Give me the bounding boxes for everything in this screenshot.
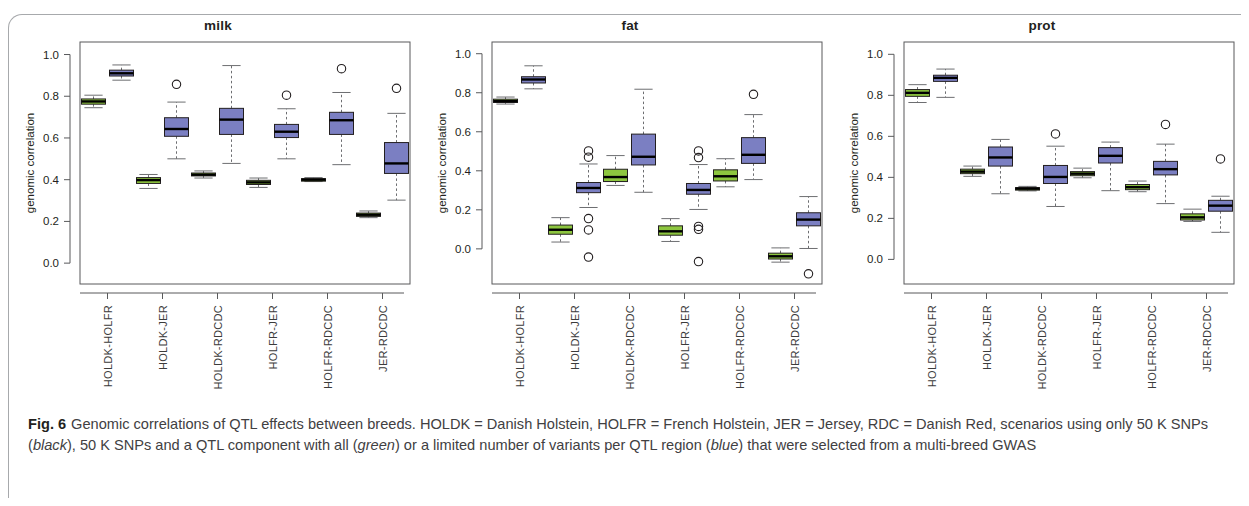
box-iqr: [1044, 165, 1068, 183]
boxplot-box: [165, 80, 189, 159]
boxplot-box: [82, 95, 106, 108]
y-tick-label: 0.8: [867, 89, 883, 101]
panel-milk: milk 0.00.20.40.60.81.0genomic correlati…: [18, 18, 418, 400]
box-iqr: [632, 134, 656, 165]
y-axis: 0.00.20.40.60.81.0: [43, 49, 70, 270]
y-tick-label: 0.0: [43, 257, 59, 269]
y-tick-label: 1.0: [455, 48, 471, 60]
boxplot-box: [247, 178, 271, 187]
box-iqr: [742, 138, 766, 164]
boxplot-box: [1126, 181, 1150, 192]
x-tick-label: HOLFR-RDCDC: [1146, 305, 1158, 389]
boxes-layer: [906, 69, 1233, 232]
boxplot-box: [522, 66, 546, 89]
outlier-point: [584, 253, 592, 261]
boxplot-box: [659, 219, 683, 242]
x-tick-label: HOLFR-JER: [1091, 305, 1103, 369]
y-tick-label: 0.8: [43, 90, 59, 102]
boxplot-box: [604, 156, 628, 186]
boxplot-box: [797, 197, 821, 278]
y-tick-label: 0.0: [867, 253, 883, 265]
x-tick-label: HOLDK-JER: [569, 305, 581, 370]
plot-area: milk 0.00.20.40.60.81.0genomic correlati…: [0, 0, 1249, 400]
panel-title-fat: fat: [430, 18, 830, 33]
box-iqr: [330, 112, 354, 134]
x-tick-label: HOLDK-RDCDC: [1036, 305, 1048, 390]
boxplot-box: [687, 147, 711, 266]
outlier-point: [694, 257, 702, 265]
boxplot-box: [1016, 186, 1040, 191]
x-tick-label: HOLDK-HOLFR: [926, 305, 938, 387]
x-tick-label: HOLDK-RDCDC: [212, 305, 224, 390]
boxplot-box: [769, 248, 793, 262]
box-iqr: [604, 169, 628, 181]
outlier-point: [584, 226, 592, 234]
x-tick-label: HOLFR-RDCDC: [734, 305, 746, 389]
outlier-point: [584, 214, 592, 222]
outlier-point: [392, 84, 400, 92]
outlier-point: [282, 91, 290, 99]
y-tick-label: 0.6: [455, 126, 471, 138]
boxes-layer: [494, 66, 821, 278]
boxplot-box: [494, 97, 518, 104]
y-tick-label: 0.8: [455, 87, 471, 99]
boxplot-svg-fat: 0.00.20.40.60.81.0genomic correlationHOL…: [430, 34, 830, 400]
x-tick-label: HOLDK-JER: [981, 305, 993, 370]
boxplot-box: [989, 139, 1013, 193]
panel-title-milk: milk: [18, 18, 418, 33]
boxplot-box: [577, 147, 601, 262]
y-tick-label: 0.0: [455, 243, 471, 255]
boxplot-box: [220, 66, 244, 164]
box-iqr: [385, 143, 409, 174]
caption-emphasis: green: [358, 437, 395, 453]
y-tick-label: 0.2: [455, 204, 471, 216]
x-tick-label: HOLDK-HOLFR: [102, 305, 114, 387]
y-axis: 0.00.20.40.60.81.0: [455, 48, 482, 255]
y-tick-label: 0.4: [455, 165, 472, 177]
figure-number: Fig. 6: [28, 416, 66, 432]
y-tick-label: 0.2: [867, 212, 883, 224]
boxplot-box: [1181, 209, 1205, 221]
panel-fat: fat 0.00.20.40.60.81.0genomic correlatio…: [430, 18, 830, 400]
boxplot-box: [1154, 120, 1178, 203]
boxplot-box: [357, 211, 381, 218]
boxplot-box: [192, 171, 216, 178]
y-tick-label: 0.4: [43, 174, 60, 186]
boxplot-box: [1071, 168, 1095, 178]
x-axis: HOLDK-HOLFRHOLDK-JERHOLDK-RDCDCHOLFR-JER…: [904, 293, 1228, 390]
y-tick-label: 0.6: [867, 130, 883, 142]
x-tick-label: JER-RDCDC: [789, 305, 801, 372]
boxplot-box: [302, 178, 326, 182]
y-tick-label: 1.0: [867, 48, 883, 60]
boxplot-box: [1044, 130, 1068, 207]
y-tick-label: 0.4: [867, 171, 884, 183]
y-tick-label: 1.0: [43, 49, 59, 61]
outlier-point: [749, 90, 757, 98]
caption-text: ), 50 K SNPs and a QTL component with al…: [67, 437, 358, 453]
boxplot-box: [1099, 142, 1123, 191]
figure-caption: Fig. 6Genomic correlations of QTL effect…: [28, 414, 1226, 455]
boxplot-box: [1209, 155, 1233, 233]
figure-caption-body: Genomic correlations of QTL effects betw…: [28, 416, 1208, 453]
outlier-point: [172, 80, 180, 88]
box-iqr: [165, 118, 189, 137]
boxplot-box: [549, 218, 573, 242]
plot-frame: [80, 42, 410, 284]
boxplot-box: [275, 91, 299, 159]
box-iqr: [220, 108, 244, 134]
x-tick-label: JER-RDCDC: [1201, 305, 1213, 372]
figure-root: milk 0.00.20.40.60.81.0genomic correlati…: [0, 0, 1249, 506]
x-tick-label: HOLFR-RDCDC: [322, 305, 334, 389]
y-axis-title: genomic correlation: [848, 113, 860, 213]
boxplot-box: [632, 89, 656, 192]
outlier-point: [584, 153, 592, 161]
outlier-point: [337, 65, 345, 73]
caption-text: ) that were selected from a multi-breed …: [738, 437, 1036, 453]
x-tick-label: HOLDK-HOLFR: [514, 305, 526, 387]
x-tick-label: HOLFR-JER: [267, 305, 279, 369]
boxplot-box: [137, 174, 161, 188]
caption-emphasis: black: [33, 437, 67, 453]
boxplot-box: [961, 166, 985, 176]
boxplot-box: [906, 85, 930, 103]
y-axis: 0.00.20.40.60.81.0: [867, 48, 894, 265]
